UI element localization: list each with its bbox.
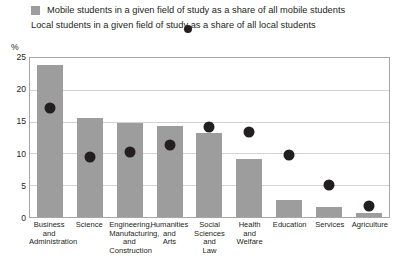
bar-5 bbox=[236, 159, 262, 218]
legend-label-mobile-students: Mobile students in a given field of stud… bbox=[47, 5, 345, 16]
data-point-5 bbox=[244, 126, 255, 137]
bar-group bbox=[30, 58, 70, 217]
x-label-0: BusinessandAdministration bbox=[29, 221, 69, 247]
legend-item-mobile-students: Mobile students in a given field of stud… bbox=[31, 3, 345, 17]
x-label-3: HumanitiesandArts bbox=[149, 221, 189, 247]
y-tick-10: 10 bbox=[2, 149, 26, 159]
bar-2 bbox=[117, 123, 143, 217]
legend-label-local-students: Local students in a given field of study… bbox=[31, 20, 316, 31]
x-label-7: Services bbox=[310, 221, 350, 230]
bar-group bbox=[269, 58, 309, 217]
data-point-0 bbox=[44, 102, 55, 113]
bar-group bbox=[190, 58, 230, 217]
x-label-5: HealthandWelfare bbox=[230, 221, 270, 247]
bar-group bbox=[309, 58, 349, 217]
bar-7 bbox=[316, 207, 342, 217]
data-point-4 bbox=[204, 122, 215, 133]
y-tick-25: 25 bbox=[2, 52, 26, 62]
series-layer bbox=[30, 58, 389, 217]
x-label-2: Engineering,Manufacturing,and Constructi… bbox=[109, 221, 149, 255]
bar-6 bbox=[276, 200, 302, 217]
y-axis-tick-labels: 25 20 15 10 5 0 bbox=[0, 57, 26, 218]
chart-container: Mobile students in a given field of stud… bbox=[0, 0, 404, 272]
y-tick-15: 15 bbox=[2, 116, 26, 126]
bar-group bbox=[110, 58, 150, 217]
bar-group bbox=[349, 58, 389, 217]
plot-area bbox=[29, 57, 390, 218]
bar-1 bbox=[77, 118, 103, 217]
chart-legend: Mobile students in a given field of stud… bbox=[31, 3, 345, 33]
bar-group bbox=[150, 58, 190, 217]
square-marker-icon bbox=[31, 6, 40, 15]
x-label-6: Education bbox=[270, 221, 310, 230]
bar-group bbox=[70, 58, 110, 217]
y-tick-5: 5 bbox=[2, 181, 26, 191]
data-point-7 bbox=[324, 180, 335, 191]
x-label-8: Agriculture bbox=[350, 221, 390, 230]
bar-4 bbox=[196, 133, 222, 217]
y-axis-unit-label: % bbox=[11, 42, 19, 52]
bar-0 bbox=[37, 65, 63, 217]
data-point-3 bbox=[164, 140, 175, 151]
bar-group bbox=[229, 58, 269, 217]
data-point-2 bbox=[124, 147, 135, 158]
legend-item-local-students: Local students in a given field of study… bbox=[31, 18, 345, 32]
circle-marker-icon bbox=[184, 25, 192, 33]
bar-8 bbox=[356, 213, 382, 217]
x-label-1: Science bbox=[69, 221, 109, 230]
x-axis-category-labels: BusinessandAdministrationScienceEngineer… bbox=[29, 221, 390, 269]
x-label-4: SocialSciencesandLaw bbox=[189, 221, 229, 255]
y-tick-0: 0 bbox=[2, 213, 26, 223]
data-point-8 bbox=[364, 200, 375, 211]
data-point-6 bbox=[284, 150, 295, 161]
data-point-1 bbox=[84, 151, 95, 162]
y-tick-20: 20 bbox=[2, 84, 26, 94]
